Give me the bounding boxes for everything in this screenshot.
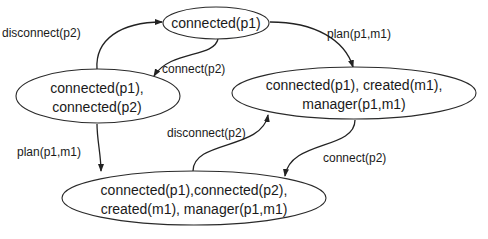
state-node-s1: connected(p1) xyxy=(163,7,269,39)
edge-label: disconnect(p2) xyxy=(2,26,81,40)
edge-label: plan(p1,m1) xyxy=(327,27,391,41)
edge-label: connect(p2) xyxy=(162,62,225,76)
edge-label: plan(p1,m1) xyxy=(17,145,81,159)
edge-s1-to-s3: plan(p1,m1) xyxy=(270,22,391,67)
state-label-line: connected(p1) xyxy=(171,15,261,31)
state-node-s2: connected(p1), connected(p2) xyxy=(16,69,180,123)
arrow-plan-p1-m1-lower xyxy=(97,124,101,171)
state-node-s3: connected(p1), created(m1), manager(p1,m… xyxy=(232,67,476,119)
state-node-s4: connected(p1),connected(p2), created(m1)… xyxy=(62,171,326,225)
edge-s4-to-s3: disconnect(p2) xyxy=(167,115,268,171)
arrow-connect-p2-lower xyxy=(285,120,355,176)
edge-s3-to-s4: connect(p2) xyxy=(285,120,386,176)
state-label-line: connected(p1), created(m1), xyxy=(266,77,443,93)
state-label-line: created(m1), manager(p1,m1) xyxy=(101,201,288,217)
state-label-line: connected(p1),connected(p2), xyxy=(101,182,288,198)
edge-s2-to-s4: plan(p1,m1) xyxy=(17,124,101,171)
state-label-line: manager(p1,m1) xyxy=(302,96,406,112)
edge-s2-to-s1: disconnect(p2) xyxy=(2,22,162,69)
edge-s1-to-s2: connect(p2) xyxy=(154,39,225,76)
state-label-line: connected(p1), xyxy=(50,80,143,96)
state-diagram: disconnect(p2) connect(p2) plan(p1,m1) p… xyxy=(0,0,488,239)
edge-label: disconnect(p2) xyxy=(167,126,246,140)
edge-label: connect(p2) xyxy=(323,151,386,165)
state-label-line: connected(p2) xyxy=(52,99,142,115)
arrow-disconnect-p2-upper xyxy=(97,22,162,69)
arrow-disconnect-p2-lower xyxy=(193,115,268,171)
